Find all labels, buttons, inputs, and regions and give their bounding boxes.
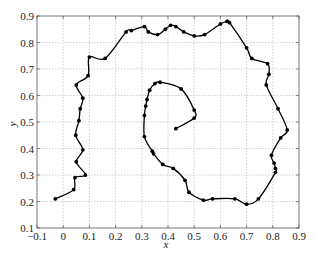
x-tick-label: 0.9 — [292, 230, 306, 242]
data-point — [81, 96, 85, 100]
y-tick-label: 0.2 — [20, 196, 34, 208]
data-point — [187, 190, 191, 194]
data-point — [203, 33, 207, 37]
data-point — [84, 173, 88, 177]
data-point — [53, 197, 57, 201]
data-point — [144, 104, 148, 108]
data-point — [192, 34, 196, 38]
data-point — [266, 62, 270, 66]
data-point — [192, 108, 196, 112]
data-point — [174, 127, 178, 131]
data-point — [103, 57, 107, 61]
y-axis-label: y — [6, 121, 18, 127]
y-tick-label: 0.9 — [20, 10, 34, 22]
y-tick-label: 0.8 — [20, 37, 34, 49]
x-tick-label: 0.1 — [83, 230, 97, 242]
data-point — [276, 107, 280, 111]
data-point — [81, 148, 85, 152]
data-point — [256, 197, 260, 201]
data-point — [124, 30, 128, 34]
data-point — [74, 133, 78, 137]
data-point — [245, 202, 249, 206]
data-point — [270, 153, 274, 157]
data-point — [272, 161, 276, 165]
data-point — [158, 80, 162, 84]
y-tick-label: 0.5 — [20, 116, 34, 128]
data-point — [78, 107, 82, 111]
data-point — [182, 30, 186, 34]
data-point — [143, 25, 147, 29]
data-point — [179, 87, 183, 91]
data-point — [250, 57, 254, 61]
y-tick-label: 0.1 — [20, 222, 34, 234]
data-point — [183, 178, 187, 182]
data-point — [201, 198, 205, 202]
data-point — [146, 30, 150, 34]
y-tick-label: 0.3 — [20, 169, 34, 181]
data-point — [274, 170, 278, 174]
data-point — [74, 160, 78, 164]
trajectory-chart: −0.100.10.20.30.40.50.60.70.80.9 0.10.20… — [0, 0, 316, 258]
data-point — [228, 21, 232, 25]
x-axis-label: x — [163, 238, 169, 250]
x-tick-label: 0.3 — [135, 230, 149, 242]
x-tick-label: 0.5 — [187, 230, 201, 242]
trajectory-markers — [53, 19, 289, 206]
x-axis-ticks: −0.100.10.20.30.40.50.60.70.80.9 — [27, 16, 306, 242]
data-point — [219, 22, 223, 26]
data-point — [145, 98, 149, 102]
x-tick-label: 0.2 — [109, 230, 123, 242]
grid-lines — [37, 16, 299, 228]
data-point — [274, 166, 278, 170]
data-point — [161, 163, 165, 167]
data-point — [264, 83, 268, 87]
x-tick-label: 0 — [60, 230, 66, 242]
data-point — [279, 136, 283, 140]
data-point — [129, 29, 133, 33]
x-tick-label: 0.8 — [266, 230, 280, 242]
data-point — [153, 82, 157, 86]
data-point — [143, 113, 147, 117]
data-point — [156, 33, 160, 37]
y-tick-label: 0.4 — [20, 143, 34, 155]
y-tick-label: 0.6 — [20, 90, 34, 102]
data-point — [211, 197, 215, 201]
x-tick-label: 0.7 — [240, 230, 254, 242]
data-point — [143, 135, 147, 139]
data-point — [285, 128, 289, 132]
data-point — [88, 55, 92, 59]
data-point — [245, 46, 249, 50]
data-point — [72, 188, 76, 192]
data-point — [233, 197, 237, 201]
data-point — [73, 176, 77, 180]
data-point — [171, 166, 175, 170]
data-point — [86, 74, 90, 78]
data-point — [150, 149, 154, 153]
data-point — [174, 25, 178, 29]
trajectory-line — [55, 20, 287, 204]
data-point — [192, 116, 196, 120]
data-point — [74, 83, 78, 87]
data-point — [163, 27, 167, 31]
x-tick-label: 0.6 — [214, 230, 228, 242]
data-point — [77, 119, 81, 123]
data-point — [148, 88, 152, 92]
data-point — [267, 72, 271, 76]
data-point — [169, 23, 173, 27]
y-tick-label: 0.7 — [20, 63, 34, 75]
